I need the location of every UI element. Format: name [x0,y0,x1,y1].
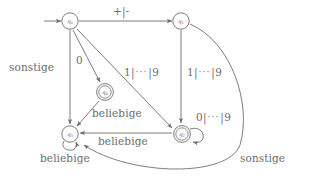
edge-label-one-to-nine-a: 1|···|9 [124,67,159,78]
edge-label-sonstige-right: sonstige [240,153,285,164]
edge-label-sonstige-left: sonstige [9,62,54,73]
range-dots: ··· [198,67,211,77]
state-node-q2[interactable]: q2 [174,126,191,143]
range-dots: ··· [135,67,148,77]
edge-label-zero-to-nine: 0|···|9 [196,112,231,123]
edge-label-plus-minus: +|- [113,6,129,17]
edge-label-beliebige-q2: beliebige [98,136,148,147]
range-end: 9 [152,66,159,78]
state-node-q3[interactable]: q3 [62,126,78,142]
edge-q2-self [190,128,203,142]
edge-label-zero: 0 [76,55,83,66]
range-start: 1 [187,66,194,78]
range-start: 0 [196,111,203,123]
edge-label-one-to-nine-b: 1|···|9 [187,67,222,78]
range-start: 1 [124,66,131,78]
state-node-q0[interactable]: q0 [62,13,78,29]
automaton-diagram: q0 q1 q4 q3 q2 +|- sonstige 0 1|···|9 1|… [0,0,309,178]
range-end: 9 [215,66,222,78]
range-end: 9 [224,111,231,123]
edge-label-beliebige-q4: beliebige [92,108,142,119]
edge-label-beliebige-q3: beliebige [40,153,90,164]
state-node-q4[interactable]: q4 [97,84,114,101]
state-node-q1[interactable]: q1 [173,13,189,29]
range-dots: ··· [207,112,220,122]
